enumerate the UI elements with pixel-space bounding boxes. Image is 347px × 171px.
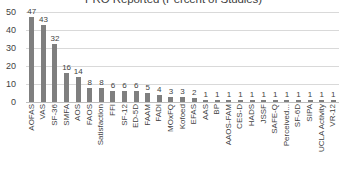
x-axis-category-label: ED-5D — [132, 104, 140, 128]
bar-value-label: 1 — [319, 91, 323, 99]
bar-slot: 1 — [316, 12, 328, 102]
bar-slot: 1 — [246, 12, 258, 102]
bar[interactable] — [331, 100, 336, 102]
bar-slot: 16 — [61, 12, 73, 102]
bar-value-label: 6 — [122, 82, 126, 90]
x-label-slot: CES-D — [235, 104, 247, 171]
bar-slot: 47 — [26, 12, 38, 102]
bar-value-label: 32 — [51, 35, 60, 43]
x-axis-category-label: EFAS — [190, 104, 198, 124]
x-label-slot: FAOS — [84, 104, 96, 171]
bar-value-label: 6 — [134, 82, 138, 90]
x-label-slot: MOxFQ — [165, 104, 177, 171]
bar-slot: 3 — [177, 12, 189, 102]
x-label-slot: SMFA — [61, 104, 73, 171]
x-label-slot: SF-12 — [119, 104, 131, 171]
bar[interactable] — [226, 100, 231, 102]
x-axis-category-label: CES-D — [236, 104, 244, 129]
bar[interactable] — [110, 91, 115, 102]
bar[interactable] — [319, 100, 324, 102]
bar[interactable] — [238, 100, 243, 102]
bar[interactable] — [41, 25, 46, 102]
y-axis-tick-label: 20 — [0, 62, 16, 71]
bar[interactable] — [52, 44, 57, 102]
x-label-slot: AOFAS — [26, 104, 38, 171]
bar-value-label: 1 — [331, 91, 335, 99]
bar-value-label: 16 — [62, 64, 71, 72]
bar[interactable] — [134, 91, 139, 102]
bar-slot: 6 — [119, 12, 131, 102]
bar-value-label: 1 — [238, 91, 242, 99]
x-axis-category-label: SF-12 — [121, 104, 129, 126]
bar-series: 47433216148866654332111111111111 — [26, 12, 339, 102]
x-axis-category-label: Satisfaction — [97, 104, 105, 145]
bar[interactable] — [76, 77, 81, 102]
x-label-slot: FFI — [107, 104, 119, 171]
x-label-slot: AAS — [200, 104, 212, 171]
x-label-slot: Perceived... — [281, 104, 293, 171]
bar-value-label: 1 — [203, 91, 207, 99]
bar[interactable] — [192, 98, 197, 102]
bar-slot: 8 — [96, 12, 108, 102]
x-label-slot: ED-5D — [130, 104, 142, 171]
bar-value-label: 14 — [74, 68, 83, 76]
x-label-slot: FAAM — [142, 104, 154, 171]
bar-value-label: 8 — [88, 79, 92, 87]
x-axis-category-labels: AOFASVASSF-36SMFAAOSFAOSSatisfactionFFIS… — [26, 104, 339, 171]
bar[interactable] — [87, 88, 92, 102]
bar-value-label: 1 — [227, 91, 231, 99]
x-label-slot: BP — [212, 104, 224, 171]
bar[interactable] — [284, 100, 289, 102]
bar[interactable] — [180, 97, 185, 102]
bar-slot: 1 — [258, 12, 270, 102]
bar[interactable] — [122, 91, 127, 102]
bar[interactable] — [250, 100, 255, 102]
bar-value-label: 43 — [39, 16, 48, 24]
x-label-slot: VR-12 — [327, 104, 339, 171]
x-label-slot: Kofoed — [177, 104, 189, 171]
x-axis-category-label: HADS — [248, 104, 256, 126]
x-label-slot: SF-36 — [49, 104, 61, 171]
bar-value-label: 1 — [250, 91, 254, 99]
bar-slot: 1 — [293, 12, 305, 102]
x-label-slot: EFAS — [188, 104, 200, 171]
bar[interactable] — [261, 100, 266, 102]
bar-slot: 2 — [188, 12, 200, 102]
bar[interactable] — [273, 100, 278, 102]
x-label-slot: SIPA — [304, 104, 316, 171]
x-axis-category-label: SMFA — [63, 104, 71, 126]
bar-value-label: 8 — [99, 79, 103, 87]
bar[interactable] — [215, 100, 220, 102]
x-axis-category-label: FAOS — [86, 104, 94, 125]
bar[interactable] — [99, 88, 104, 102]
bar-value-label: 1 — [215, 91, 219, 99]
x-axis-category-label: SF-6D — [294, 104, 302, 127]
y-axis-tick-label: 40 — [0, 26, 16, 35]
bar-slot: 1 — [223, 12, 235, 102]
x-axis-category-label: JSSF — [260, 104, 268, 124]
bar[interactable] — [64, 73, 69, 102]
bar[interactable] — [308, 100, 313, 102]
bar[interactable] — [29, 17, 34, 102]
bar[interactable] — [296, 100, 301, 102]
bar-value-label: 3 — [169, 88, 173, 96]
bar[interactable] — [168, 97, 173, 102]
bar-slot: 8 — [84, 12, 96, 102]
pro-reported-bar-chart: PRO Reported (Percent of Studies) 010203… — [0, 0, 347, 171]
y-axis-tick-label: 50 — [0, 8, 16, 17]
x-axis-category-label: Kofoed — [179, 104, 187, 129]
bar[interactable] — [145, 93, 150, 102]
x-axis-category-label: Perceived... — [283, 104, 291, 146]
x-label-slot: VAS — [38, 104, 50, 171]
x-label-slot: FADI — [154, 104, 166, 171]
bar-slot: 1 — [327, 12, 339, 102]
bar-slot: 32 — [49, 12, 61, 102]
bar[interactable] — [203, 100, 208, 102]
x-label-slot: Satisfaction — [96, 104, 108, 171]
bar-value-label: 3 — [180, 88, 184, 96]
bar-value-label: 47 — [27, 8, 36, 16]
x-label-slot: SF-6D — [293, 104, 305, 171]
bar[interactable] — [157, 95, 162, 102]
bar-value-label: 1 — [273, 91, 277, 99]
x-axis-category-label: AAS — [202, 104, 210, 120]
